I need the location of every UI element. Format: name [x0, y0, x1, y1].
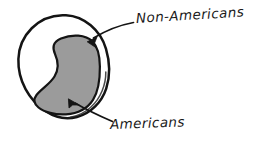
label-americans: Americans	[110, 115, 185, 131]
inner-blob-shape	[34, 36, 100, 115]
